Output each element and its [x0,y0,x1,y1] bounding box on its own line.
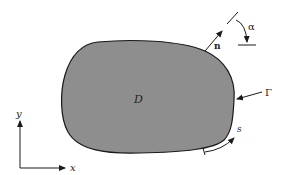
region-label: D [133,93,143,106]
diagram-canvas: D n α Γ s y x [0,0,289,175]
normal-extension-line [227,12,238,24]
angle-arc-arrow [236,20,247,42]
boundary-pointer-arrow [237,92,262,99]
angle-label: α [248,21,255,32]
arc-start-tick [203,148,205,155]
x-axis-label: x [70,162,76,173]
arc-length-label: s [237,124,242,134]
region-d [62,41,235,154]
domain-diagram: D n α Γ s y x [0,0,289,175]
y-axis-label: y [15,108,22,119]
boundary-label: Γ [265,87,272,98]
normal-label: n [214,41,221,51]
